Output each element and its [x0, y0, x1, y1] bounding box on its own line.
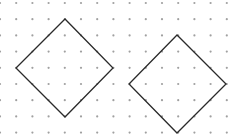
grid-dot	[15, 34, 17, 36]
grid-dot	[112, 83, 114, 85]
grid-dot	[64, 2, 66, 4]
grid-dot	[112, 132, 114, 134]
grid-dot	[177, 115, 179, 117]
grid-dot	[0, 34, 1, 36]
grid-dot	[210, 115, 212, 117]
grid-dot	[0, 99, 1, 101]
grid-dot	[177, 67, 179, 69]
grid-dot	[96, 18, 98, 20]
grid-dot	[226, 18, 228, 20]
grid-dot	[226, 99, 228, 101]
grid-dot	[96, 99, 98, 101]
grid-dot	[226, 115, 228, 117]
grid-dot	[177, 2, 179, 4]
grid-dot	[161, 83, 163, 85]
grid-dot	[129, 2, 131, 4]
grid-dot	[210, 132, 212, 134]
grid-dot	[15, 83, 17, 85]
grid-dot	[64, 34, 66, 36]
grid-dot	[177, 99, 179, 101]
grid-dot	[0, 115, 1, 117]
grid-dot	[80, 115, 82, 117]
diagram-svg	[0, 0, 231, 138]
grid-dot	[0, 83, 1, 85]
grid-dot	[129, 18, 131, 20]
grid-dot	[210, 83, 212, 85]
grid-dot	[129, 132, 131, 134]
grid-dot	[193, 34, 195, 36]
grid-dot	[15, 132, 17, 134]
grid-dot	[96, 34, 98, 36]
grid-dot	[112, 18, 114, 20]
grid-dot	[48, 18, 50, 20]
grid-dot	[193, 99, 195, 101]
grid-dot	[210, 18, 212, 20]
grid-dot	[48, 83, 50, 85]
grid-dot	[177, 51, 179, 53]
grid-dot	[145, 34, 147, 36]
grid-dot	[96, 115, 98, 117]
grid-dot	[48, 67, 50, 69]
grid-dot	[80, 2, 82, 4]
grid-dot	[48, 115, 50, 117]
grid-dot	[48, 132, 50, 134]
grid-dot	[226, 132, 228, 134]
grid-dot	[145, 132, 147, 134]
grid-dot	[161, 132, 163, 134]
grid-dot	[161, 18, 163, 20]
grid-dot	[0, 2, 1, 4]
grid-dot	[96, 67, 98, 69]
grid-dot	[31, 34, 33, 36]
grid-dot	[193, 132, 195, 134]
grid-dot	[193, 2, 195, 4]
grid-dot	[177, 83, 179, 85]
grid-dot	[226, 67, 228, 69]
grid-dot	[145, 18, 147, 20]
grid-dot	[161, 67, 163, 69]
grid-dot	[226, 2, 228, 4]
grid-dot	[31, 99, 33, 101]
grid-dot	[80, 83, 82, 85]
grid-dot	[48, 51, 50, 53]
grid-dot	[96, 2, 98, 4]
grid-dot	[210, 2, 212, 4]
grid-dot	[48, 2, 50, 4]
grid-dot	[145, 115, 147, 117]
grid-dot	[31, 2, 33, 4]
grid-dot	[31, 132, 33, 134]
grid-dot	[15, 115, 17, 117]
grid-dot	[80, 51, 82, 53]
grid-dot	[64, 132, 66, 134]
grid-dot	[193, 18, 195, 20]
grid-dot	[161, 34, 163, 36]
grid-dot	[15, 51, 17, 53]
grid-dot	[177, 18, 179, 20]
grid-dot	[145, 2, 147, 4]
grid-dot	[145, 51, 147, 53]
grid-dot	[129, 67, 131, 69]
dot-grid-diagram	[0, 0, 231, 138]
grid-dot	[64, 67, 66, 69]
grid-dot	[64, 51, 66, 53]
grid-dot	[210, 34, 212, 36]
grid-dot	[0, 18, 1, 20]
grid-dot	[96, 132, 98, 134]
grid-dot	[226, 34, 228, 36]
grid-dot	[112, 34, 114, 36]
grid-dot	[31, 18, 33, 20]
grid-dot	[161, 99, 163, 101]
grid-dot	[129, 51, 131, 53]
grid-dot	[15, 18, 17, 20]
grid-dot	[112, 99, 114, 101]
grid-dot	[0, 51, 1, 53]
grid-dot	[80, 67, 82, 69]
grid-dot	[64, 83, 66, 85]
grid-dot	[31, 67, 33, 69]
grid-dot	[112, 115, 114, 117]
grid-dot	[0, 67, 1, 69]
grid-dot	[226, 51, 228, 53]
grid-dot	[31, 115, 33, 117]
grid-dot	[112, 2, 114, 4]
grid-dot	[15, 99, 17, 101]
grid-dot	[193, 83, 195, 85]
